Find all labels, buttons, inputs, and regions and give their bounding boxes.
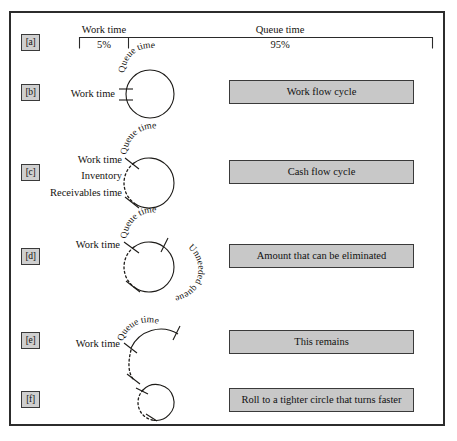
row-tag-e: [e] [21, 332, 40, 349]
caption-this-remains: This remains [229, 330, 414, 354]
row-tag-b: [b] [21, 84, 40, 101]
row-tag-d: [d] [21, 248, 40, 265]
caption-cash-flow-cycle: Cash flow cycle [229, 160, 414, 184]
row-tag-a: [a] [21, 34, 40, 51]
row-tag-c: [c] [21, 164, 40, 181]
caption-tighter-circle: Roll to a tighter circle that turns fast… [229, 388, 414, 412]
figure-frame [9, 11, 445, 426]
caption-amount-eliminated: Amount that can be eliminated [229, 244, 414, 268]
caption-work-flow-cycle: Work flow cycle [229, 80, 414, 104]
row-tag-f: [f] [21, 391, 40, 408]
figure-root: [a] [b] [c] [d] [e] [f] Work flow cycle … [0, 0, 457, 441]
